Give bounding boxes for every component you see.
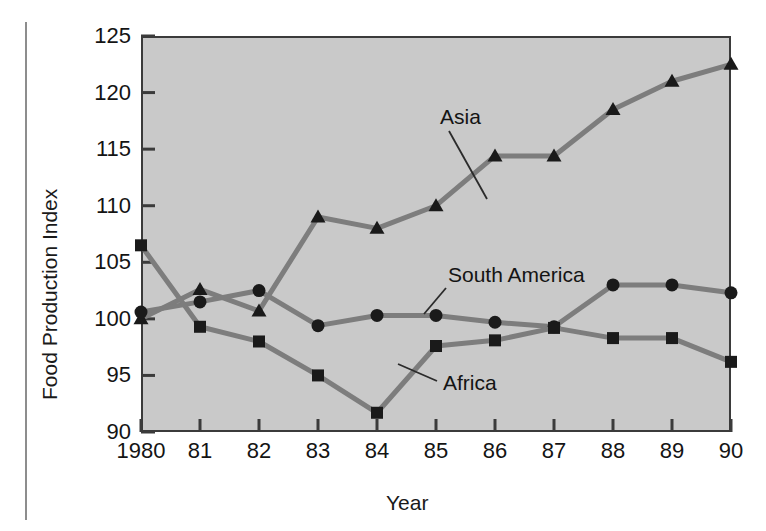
series-line-africa <box>141 245 731 412</box>
data-point-africa-1980 <box>135 239 147 251</box>
x-tick-label-83: 83 <box>298 440 338 462</box>
y-tick-label-95: 95 <box>69 364 131 386</box>
data-point-africa-85 <box>430 340 442 352</box>
y-tick-label-110: 110 <box>69 195 131 217</box>
data-point-africa-82 <box>253 335 265 347</box>
y-tick-label-120: 120 <box>69 82 131 104</box>
series-label-africa: Africa <box>443 371 497 395</box>
data-point-south-america-83 <box>312 319 325 332</box>
x-tick-label-1980: 1980 <box>106 440 176 462</box>
x-tick-label-89: 89 <box>652 440 692 462</box>
data-point-africa-89 <box>666 332 678 344</box>
food-production-index-chart: 9095100105110115120125 19808182838485868… <box>0 0 766 531</box>
data-point-south-america-90 <box>725 286 738 299</box>
data-point-south-america-86 <box>489 316 502 329</box>
x-tick-label-82: 82 <box>239 440 279 462</box>
x-tick-label-88: 88 <box>593 440 633 462</box>
data-point-africa-88 <box>607 332 619 344</box>
data-point-africa-83 <box>312 369 324 381</box>
data-point-south-america-81 <box>194 295 207 308</box>
y-tick-label-100: 100 <box>69 308 131 330</box>
data-point-africa-81 <box>194 321 206 333</box>
x-tick-label-84: 84 <box>357 440 397 462</box>
y-tick-label-125: 125 <box>69 25 131 47</box>
data-point-south-america-88 <box>607 278 620 291</box>
series-label-south-america: South America <box>448 263 585 287</box>
data-point-africa-87 <box>548 322 560 334</box>
x-tick-label-90: 90 <box>711 440 751 462</box>
data-point-south-america-89 <box>666 278 679 291</box>
data-point-africa-90 <box>725 356 737 368</box>
x-tick-label-87: 87 <box>534 440 574 462</box>
data-point-africa-84 <box>371 407 383 419</box>
x-axis-title: Year <box>386 491 428 515</box>
y-tick-label-105: 105 <box>69 251 131 273</box>
data-point-africa-86 <box>489 334 501 346</box>
y-tick-label-115: 115 <box>69 138 131 160</box>
x-tick-label-86: 86 <box>475 440 515 462</box>
x-tick-label-85: 85 <box>416 440 456 462</box>
x-tick-label-81: 81 <box>180 440 220 462</box>
data-point-south-america-82 <box>253 284 266 297</box>
data-point-south-america-85 <box>430 309 443 322</box>
data-point-south-america-84 <box>371 309 384 322</box>
y-axis-title: Food Production Index <box>38 189 62 400</box>
data-point-asia-81 <box>193 282 208 295</box>
data-point-south-america-1980 <box>135 306 148 319</box>
series-line-asia <box>141 64 731 319</box>
series-label-asia: Asia <box>440 105 481 129</box>
data-series-group <box>134 57 739 419</box>
